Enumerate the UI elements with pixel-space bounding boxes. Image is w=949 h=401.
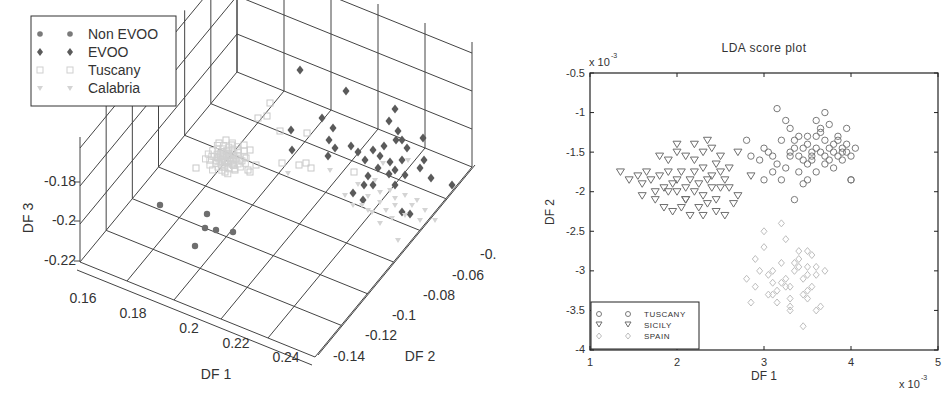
- data-points-2d: [616, 105, 858, 329]
- z-tick: -0.18: [44, 173, 76, 189]
- y-tick: -0.: [480, 246, 496, 262]
- y-tick: -3: [575, 264, 585, 276]
- x-axis-ticks: 1 2 3 4 5: [587, 356, 941, 368]
- x-axis-label: DF 1: [201, 366, 232, 382]
- y-tick: -2: [575, 185, 585, 197]
- x-tick: 4: [848, 356, 854, 368]
- legend-label: Tuscany: [88, 62, 140, 78]
- y-axis-ticks: -0.5 -1 -1.5 -2 -2.5 -3 -3.5 -4: [566, 67, 585, 355]
- x-multiplier-base: x 10: [899, 378, 920, 390]
- legend-label: Non EVOO: [88, 26, 158, 42]
- lda-canvas: LDA score plot x 10 -3 -0.5 -1 -1.5 -2 -…: [520, 0, 949, 401]
- y-axis-label: DF 2: [543, 199, 557, 225]
- x-tick: 3: [761, 356, 767, 368]
- legend-label: EVOO: [88, 44, 129, 60]
- legend-2d: TUSCANY SICILY SPAIN: [591, 302, 699, 349]
- z-axis-ticks: -0.18 -0.2 -0.22: [44, 173, 76, 268]
- legend-label: SICILY: [644, 321, 672, 330]
- x-axis-label: DF 1: [751, 369, 777, 383]
- x-multiplier-exp: -3: [921, 374, 927, 381]
- y-tick: -3.5: [566, 304, 585, 316]
- x-tick: 1: [587, 356, 593, 368]
- scatter-3d-chart: -0.18 -0.2 -0.22 DF 3 0.16 0.18 0.2 0.22…: [0, 0, 520, 401]
- y-tick: -0.12: [365, 327, 397, 343]
- lda-score-plot: LDA score plot x 10 -3 -0.5 -1 -1.5 -2 -…: [520, 0, 949, 401]
- z-tick: -0.2: [52, 212, 76, 228]
- x-tick: 5: [935, 356, 941, 368]
- y-tick: -2.5: [566, 225, 585, 237]
- x-tick: 0.24: [272, 349, 299, 365]
- y-tick: -0.14: [333, 348, 365, 364]
- y-tick: -0.06: [452, 267, 484, 283]
- filled-circle-icon: [67, 31, 73, 37]
- y-axis-label: DF 2: [405, 348, 436, 364]
- y-tick: -0.5: [566, 67, 585, 79]
- x-tick: 2: [674, 356, 680, 368]
- y-multiplier: x 10 -3: [589, 52, 617, 68]
- scatter-3d-canvas: -0.18 -0.2 -0.22 DF 3 0.16 0.18 0.2 0.22…: [0, 0, 520, 401]
- z-tick: -0.22: [44, 252, 76, 268]
- y-tick: -1.5: [566, 146, 585, 158]
- y-tick: -0.08: [423, 287, 455, 303]
- x-tick: 0.22: [222, 335, 249, 351]
- legend-label: TUSCANY: [644, 310, 686, 319]
- y-multiplier-exp: -3: [611, 52, 617, 59]
- y-tick: -0.1: [392, 307, 416, 323]
- legend-3d: Non EVOO EVOO Tuscany Calabria: [31, 16, 176, 106]
- data-points-3d: [157, 66, 456, 250]
- y-tick: -1: [575, 106, 585, 118]
- y-multiplier-base: x 10: [589, 56, 610, 68]
- x-tick: 0.2: [179, 320, 199, 336]
- chart-title: LDA score plot: [721, 41, 806, 55]
- y-tick: -4: [575, 343, 585, 355]
- x-tick: 0.16: [69, 290, 96, 306]
- x-axis-ticks: 0.16 0.18 0.2 0.22 0.24: [69, 290, 299, 365]
- legend-label: Calabria: [88, 80, 140, 96]
- x-multiplier: x 10 -3: [899, 374, 927, 390]
- legend-label: SPAIN: [644, 332, 670, 341]
- z-axis-label: DF 3: [20, 203, 36, 234]
- filled-circle-icon: [37, 31, 43, 37]
- x-tick: 0.18: [119, 305, 146, 321]
